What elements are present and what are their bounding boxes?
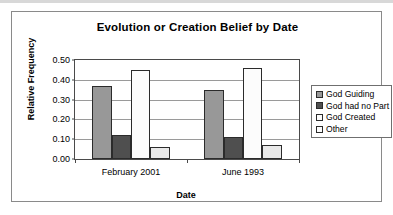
legend-swatch-icon (316, 102, 323, 109)
legend-label: Other (326, 125, 348, 134)
bar (112, 135, 131, 159)
bar (92, 86, 111, 159)
bar (204, 90, 223, 159)
legend-label: God had no Part (326, 102, 389, 111)
y-tick-label: 0.40 (52, 75, 70, 85)
y-tick-label: 0.10 (52, 134, 70, 144)
x-tick-label: February 2001 (102, 167, 161, 177)
y-tick-label: 0.00 (52, 154, 70, 164)
legend-item: God Guiding (316, 90, 388, 99)
chart-legend: God GuidingGod had no PartGod CreatedOth… (311, 85, 392, 138)
legend-item: God Created (316, 113, 388, 122)
x-tick-mark (299, 159, 300, 163)
legend-swatch-icon (316, 126, 323, 133)
legend-item: God had no Part (316, 102, 388, 111)
legend-label: God Guiding (326, 90, 374, 99)
scan-artifact-line (0, 0, 393, 3)
y-axis-title: Relative Frequency (26, 31, 36, 127)
bar (150, 147, 169, 159)
chart-frame: Evolution or Creation Belief by Date Rel… (11, 11, 382, 202)
legend-swatch-icon (316, 91, 323, 98)
x-tick-mark (187, 159, 188, 163)
bar-group (204, 60, 281, 159)
chart-title: Evolution or Creation Belief by Date (12, 21, 383, 33)
bar (243, 68, 262, 159)
y-tick-label: 0.20 (52, 114, 70, 124)
bar (131, 70, 150, 159)
x-tick-mark (75, 159, 76, 163)
bar (224, 137, 243, 159)
legend-label: God Created (326, 113, 375, 122)
y-tick-label: 0.30 (52, 95, 70, 105)
plot-area: 0.000.100.200.300.400.50 February 2001Ju… (74, 59, 300, 160)
bar-group (92, 60, 169, 159)
legend-swatch-icon (316, 114, 323, 121)
x-axis-title: Date (74, 190, 298, 200)
legend-item: Other (316, 125, 388, 134)
y-tick-label: 0.50 (52, 55, 70, 65)
bars-layer (75, 60, 299, 159)
bar (262, 145, 281, 159)
x-tick-label: June 1993 (222, 167, 264, 177)
